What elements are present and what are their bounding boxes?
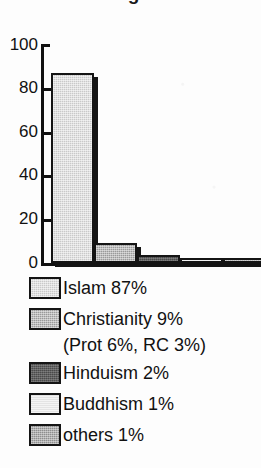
bar-face [137, 255, 180, 263]
y-tick-label-80: 80 [4, 79, 38, 96]
bar-christianity[interactable] [94, 243, 137, 263]
bar-buddhism[interactable] [180, 258, 223, 263]
legend-swatch-islam [29, 277, 61, 299]
legend-label-islam: Islam 87% [63, 276, 147, 300]
legend-swatch-hinduism [29, 362, 61, 384]
legend-swatch-buddhism [29, 393, 61, 415]
bar-face [94, 243, 137, 263]
legend-swatch-others [29, 424, 61, 446]
legend-swatch-christianity [29, 308, 61, 330]
chart-plot-area: 100 80 60 40 20 0 [0, 18, 261, 268]
bar-others[interactable] [223, 258, 261, 263]
legend-item-islam[interactable]: Islam 87% [0, 276, 261, 304]
y-axis-labels: 100 80 60 40 20 0 [0, 18, 38, 268]
bar-islam[interactable] [51, 73, 94, 263]
chart-title-clip: Religion [0, 0, 261, 7]
y-tick-label-0: 0 [4, 254, 38, 271]
legend-label-hinduism: Hinduism 2% [63, 361, 169, 385]
legend-label-buddhism: Buddhism 1% [63, 392, 174, 416]
legend-item-christianity[interactable]: Christianity 9% [0, 307, 261, 335]
bar-group [41, 44, 255, 263]
bar-face [51, 73, 94, 263]
page-title: Religion [0, 0, 261, 5]
bar-hinduism[interactable] [137, 255, 180, 263]
bar-face [180, 258, 223, 263]
legend-sublabel-christianity: (Prot 6%, RC 3%) [0, 333, 261, 357]
y-tick-label-40: 40 [4, 166, 38, 183]
y-tick-label-100: 100 [4, 36, 38, 53]
legend-label-others: others 1% [63, 423, 144, 447]
legend-item-hinduism[interactable]: Hinduism 2% [0, 361, 261, 389]
legend-item-buddhism[interactable]: Buddhism 1% [0, 392, 261, 420]
bar-face [223, 258, 261, 263]
legend-item-others[interactable]: others 1% [0, 423, 261, 451]
chart-legend: Islam 87% Christianity 9% (Prot 6%, RC 3… [0, 276, 261, 454]
legend-label-christianity: Christianity 9% [63, 307, 183, 331]
y-tick-label-60: 60 [4, 123, 38, 140]
y-tick-label-20: 20 [4, 210, 38, 227]
